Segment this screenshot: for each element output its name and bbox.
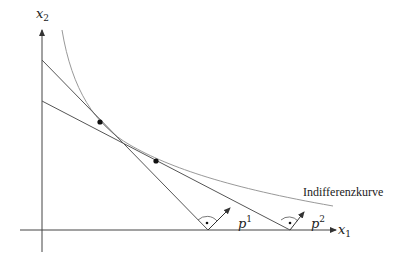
tangent-point-2 (153, 158, 158, 163)
tangent-point-1 (97, 119, 102, 124)
budget-line-2 (42, 101, 290, 230)
vector-label-p1: p1 (238, 214, 252, 231)
vector-label-p2: p2 (311, 214, 325, 231)
y-axis-label: x2 (36, 6, 49, 23)
right-angle-dot-1 (206, 222, 209, 225)
x-axis-label: x1 (338, 222, 351, 239)
right-angle-arc-2 (281, 217, 298, 221)
price-vector-2 (290, 212, 304, 230)
price-vector-1 (208, 208, 230, 230)
indifference-curve-label: Indifferenzkurve (303, 185, 383, 200)
right-angle-arc-1 (198, 216, 217, 221)
diagram-canvas: x2 x1 Indifferenzkurve p1 p2 (0, 0, 408, 264)
indifference-curve (62, 30, 333, 206)
budget-line-1 (42, 60, 208, 230)
right-angle-dot-2 (289, 222, 292, 225)
